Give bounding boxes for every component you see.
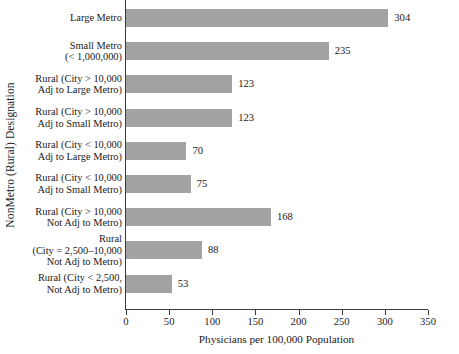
category-label-line: Adj to Large Metro) bbox=[16, 151, 122, 163]
x-axis-tick-mark bbox=[212, 310, 213, 315]
bar-value-label: 304 bbox=[394, 9, 410, 27]
plot-area: 3042351231237075168885305010015020025030… bbox=[125, 0, 428, 310]
category-label-line: Rural bbox=[16, 233, 122, 245]
category-label: Rural (City < 10,000Adj to Small Metro) bbox=[16, 172, 122, 195]
bar bbox=[126, 142, 186, 160]
x-axis-tick-label: 300 bbox=[377, 316, 393, 327]
bar bbox=[126, 9, 388, 27]
category-label-line: Adj to Small Metro) bbox=[16, 118, 122, 130]
x-axis-tick-mark bbox=[428, 310, 429, 315]
category-label-line: Rural (City > 10,000 bbox=[16, 106, 122, 118]
category-label-line: Rural (City > 10,000 bbox=[16, 73, 122, 85]
category-label-line: Adj to Small Metro) bbox=[16, 184, 122, 196]
x-axis-tick-mark bbox=[385, 310, 386, 315]
x-axis-tick-mark bbox=[299, 310, 300, 315]
bar-value-label: 123 bbox=[238, 75, 254, 93]
y-axis-title-text: NonMetro (Rural) Designation bbox=[4, 82, 16, 227]
category-label: Small Metro(< 1,000,000) bbox=[16, 40, 122, 63]
category-label-line: Rural (City < 10,000 bbox=[16, 139, 122, 151]
horizontal-bar-chart: NonMetro (Rural) Designation Large Metro… bbox=[0, 0, 459, 354]
bar bbox=[126, 75, 232, 93]
x-axis-tick-label: 150 bbox=[247, 316, 263, 327]
bar-value-label: 75 bbox=[197, 175, 208, 193]
bar bbox=[126, 241, 202, 259]
x-axis-tick-mark bbox=[255, 310, 256, 315]
category-label: Rural (City > 10,000Adj to Small Metro) bbox=[16, 106, 122, 129]
category-label-column: Large MetroSmall Metro(< 1,000,000)Rural… bbox=[16, 0, 122, 310]
bar-value-label: 70 bbox=[192, 142, 203, 160]
bar-value-label: 168 bbox=[277, 208, 293, 226]
category-label-line: Rural (City > 10,000 bbox=[16, 206, 122, 218]
bar bbox=[126, 208, 271, 226]
x-axis-tick-label: 250 bbox=[334, 316, 350, 327]
category-label: Rural (City < 2,500,Not Adj to Metro) bbox=[16, 272, 122, 295]
category-label: Large Metro bbox=[16, 12, 122, 24]
x-axis-tick-label: 0 bbox=[123, 316, 128, 327]
bar bbox=[126, 109, 232, 127]
category-label-line: (< 1,000,000) bbox=[16, 51, 122, 63]
bar bbox=[126, 275, 172, 293]
category-label-line: Rural (City < 10,000 bbox=[16, 172, 122, 184]
category-label-line: Not Adj to Metro) bbox=[16, 217, 122, 229]
category-label-line: Adj to Large Metro) bbox=[16, 84, 122, 96]
bar bbox=[126, 42, 329, 60]
category-label-line: Rural (City < 2,500, bbox=[16, 272, 122, 284]
x-axis-tick-label: 200 bbox=[291, 316, 307, 327]
bar-value-label: 88 bbox=[208, 241, 219, 259]
category-label-line: (City = 2,500–10,000 bbox=[16, 245, 122, 257]
category-label: Rural (City > 10,000Adj to Large Metro) bbox=[16, 73, 122, 96]
x-axis-tick-mark bbox=[342, 310, 343, 315]
x-axis-tick-mark bbox=[169, 310, 170, 315]
category-label: Rural (City < 10,000Adj to Large Metro) bbox=[16, 139, 122, 162]
category-label-line: Not Adj to Metro) bbox=[16, 256, 122, 268]
x-axis-tick-mark bbox=[126, 310, 127, 315]
bar-value-label: 53 bbox=[178, 275, 189, 293]
x-axis-line bbox=[125, 309, 428, 310]
x-axis-tick-label: 50 bbox=[164, 316, 175, 327]
bar bbox=[126, 175, 191, 193]
category-label-line: Large Metro bbox=[16, 12, 122, 24]
category-label-line: Not Adj to Metro) bbox=[16, 284, 122, 296]
category-label-line: Small Metro bbox=[16, 40, 122, 52]
x-axis-tick-label: 100 bbox=[204, 316, 220, 327]
category-label: Rural(City = 2,500–10,000Not Adj to Metr… bbox=[16, 233, 122, 268]
x-axis-tick-label: 350 bbox=[420, 316, 436, 327]
bar-value-label: 235 bbox=[335, 42, 351, 60]
category-label: Rural (City > 10,000Not Adj to Metro) bbox=[16, 206, 122, 229]
x-axis-title: Physicians per 100,000 Population bbox=[125, 333, 428, 345]
bar-value-label: 123 bbox=[238, 109, 254, 127]
